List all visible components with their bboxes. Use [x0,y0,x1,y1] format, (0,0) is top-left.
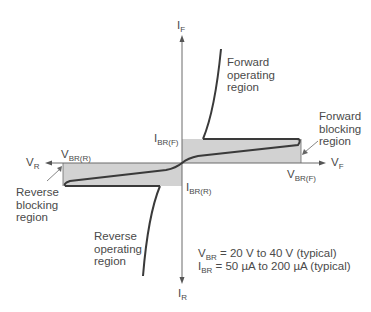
vbr-f-sub: BR(F) [295,174,316,183]
ir-axis-label: IR [178,287,187,300]
vbr-r-sub: BR(R) [69,154,91,163]
vbr-note-text: = 20 V to 40 V (typical) [217,247,337,259]
ir-arrowhead [180,277,185,284]
reverse-blocking-pointer [47,169,60,181]
vbr-r-label: VBR(R) [61,148,91,161]
vr-axis-label: VR [26,156,39,169]
reverse-operating-curve [143,186,160,276]
vbr-note: VBR = 20 V to 40 V (typical) [198,247,337,260]
forward-operating-label: Forward operating region [227,56,275,94]
reverse-operating-label: Reverse operating region [94,230,142,268]
if-sub: F [180,25,185,34]
forward-blocking-label: Forward blocking region [319,110,361,148]
ir-sub: R [181,293,187,302]
forward-blocking-pointer [305,141,318,152]
reverse-blocking-label: Reverse blocking region [16,186,59,224]
if-arrowhead [180,35,185,42]
ibr-f-label: IBR(F) [154,132,179,145]
vbr-r-symbol: V [61,148,69,160]
ibr-note-text: = 50 µA to 200 µA (typical) [212,260,350,272]
if-axis-label: IF [177,19,185,32]
vr-sub: R [34,162,40,171]
vbr-note-symbol: V [198,247,206,259]
ibr-note: IBR = 50 µA to 200 µA (typical) [198,260,351,273]
ibr-note-sub: BR [201,266,212,275]
vbr-f-symbol: V [287,168,295,180]
vbr-f-label: VBR(F) [287,168,316,181]
vf-symbol: V [331,156,339,168]
ibr-r-sub: BR(R) [189,187,211,196]
vf-axis-label: VF [331,156,344,169]
vf-sub: F [339,162,344,171]
ibr-f-sub: BR(F) [157,138,178,147]
vr-arrowhead [45,161,52,166]
vr-symbol: V [26,156,34,168]
vf-arrowhead [319,161,326,166]
forward-operating-curve [203,49,221,139]
ibr-r-label: IBR(R) [186,181,211,194]
